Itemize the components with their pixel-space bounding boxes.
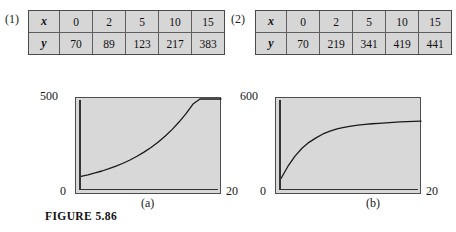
table-cell-y-3: 217 <box>159 33 192 55</box>
table-row-y: y 70 89 123 217 383 <box>29 33 225 55</box>
table-row-x: x 0 2 5 10 15 <box>29 11 225 33</box>
y-max-tick-label-a: 500 <box>40 89 58 104</box>
table-cell-x-1: 2 <box>320 11 353 33</box>
row-header-y: y <box>256 33 287 55</box>
table-cell-x-4: 15 <box>192 11 225 33</box>
table-cell-x-0: 0 <box>287 11 320 33</box>
y-min-tick-label-b: 0 <box>260 184 266 199</box>
table-cell-x-2: 5 <box>126 11 159 33</box>
figure-caption: FIGURE 5.86 <box>45 210 117 222</box>
x-max-tick-label-b: 20 <box>426 184 438 199</box>
table-cell-x-2: 5 <box>353 11 386 33</box>
saturating-growth-curve-b <box>276 98 422 195</box>
table-cell-x-3: 10 <box>159 11 192 33</box>
table-cell-y-2: 123 <box>126 33 159 55</box>
panel-index-1: (1) <box>5 12 19 27</box>
table-cell-x-1: 2 <box>93 11 126 33</box>
y-max-tick-label-b: 600 <box>240 89 258 104</box>
y-axis-line-a <box>79 100 81 190</box>
table-cell-y-2: 341 <box>353 33 386 55</box>
table-cell-y-3: 419 <box>386 33 419 55</box>
row-header-x: x <box>29 11 60 33</box>
table-cell-y-0: 70 <box>60 33 93 55</box>
table-cell-y-1: 89 <box>93 33 126 55</box>
panel-index-2: (2) <box>231 12 245 27</box>
plot-area-a <box>75 97 221 194</box>
table-cell-y-0: 70 <box>287 33 320 55</box>
subcaption-b: (b) <box>366 196 380 211</box>
x-axis-line-b <box>279 189 418 191</box>
table-cell-y-4: 383 <box>192 33 225 55</box>
y-min-tick-label-a: 0 <box>60 184 66 199</box>
plot-area-b <box>275 97 421 194</box>
table-cell-y-1: 219 <box>320 33 353 55</box>
x-max-tick-label-a: 20 <box>226 184 238 199</box>
x-axis-line-a <box>79 189 218 191</box>
y-axis-line-b <box>279 100 281 190</box>
table-cell-x-3: 10 <box>386 11 419 33</box>
table-row-y: y 70 219 341 419 441 <box>256 33 452 55</box>
exponential-growth-curve-a <box>76 98 222 195</box>
table-row-x: x 0 2 5 10 15 <box>256 11 452 33</box>
table-cell-x-0: 0 <box>60 11 93 33</box>
subcaption-a: (a) <box>141 196 154 211</box>
row-header-x: x <box>256 11 287 33</box>
table-cell-x-4: 15 <box>419 11 452 33</box>
row-header-y: y <box>29 33 60 55</box>
table-cell-y-4: 441 <box>419 33 452 55</box>
data-table-2: x 0 2 5 10 15 y 70 219 341 419 441 <box>255 10 452 55</box>
data-table-1: x 0 2 5 10 15 y 70 89 123 217 383 <box>28 10 225 55</box>
